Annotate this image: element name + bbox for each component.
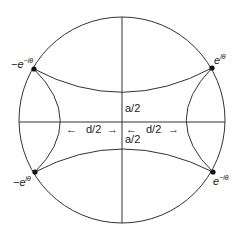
point-top-right [209, 65, 214, 70]
hyperbolic-disk-diagram: −e−iθ eiθ −eiθ e−iθ a/2 a/2 ← d/2 → ← d/… [0, 0, 244, 236]
label-top-left: −e−iθ [11, 57, 33, 70]
point-bottom-right [210, 169, 215, 174]
arrow-right-2: → [168, 123, 179, 135]
top-geodesic [34, 68, 212, 92]
label-a-top: a/2 [125, 102, 140, 114]
bottom-geodesic [35, 149, 213, 172]
point-top-left [31, 66, 36, 71]
arrow-left-1: ← [66, 123, 77, 135]
label-bottom-left: −eiθ [13, 175, 31, 188]
left-geodesic [34, 69, 60, 172]
point-bottom-left [32, 169, 37, 174]
arrow-left-2: ← [126, 123, 137, 135]
arrow-right-1: → [107, 123, 118, 135]
label-top-right: eiθ [214, 53, 226, 66]
label-d-right: d/2 [146, 123, 161, 135]
label-bottom-right: e−iθ [213, 174, 229, 187]
label-d-left: d/2 [86, 123, 101, 135]
right-geodesic [186, 68, 213, 172]
